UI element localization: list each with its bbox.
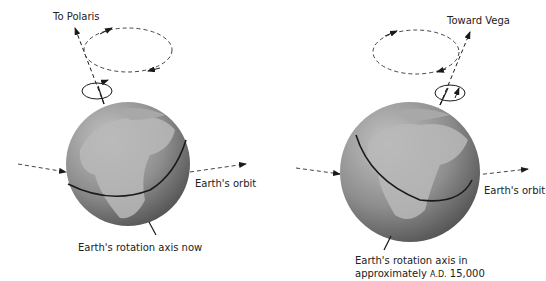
- precession-diagram: [0, 0, 546, 281]
- precession-circle: [84, 28, 172, 72]
- polaris-label: To Polaris: [53, 10, 100, 23]
- orbit-label-left: Earth's orbit: [195, 177, 256, 190]
- spin-loop-icon: [435, 85, 465, 101]
- spin-loop-icon: [82, 83, 112, 99]
- earth-globe-icon: [340, 102, 480, 242]
- orbit-dashed-right: [476, 169, 528, 175]
- right-earth-diagram: [296, 30, 528, 250]
- orbit-dashed-left: [296, 168, 340, 174]
- left-earth-diagram: [18, 28, 246, 235]
- precession-circle: [373, 30, 459, 74]
- earth-globe-icon: [66, 102, 190, 226]
- axis-label-left: Earth's rotation axis now: [78, 241, 202, 254]
- axis-label-right-line1: Earth's rotation axis in: [355, 254, 468, 267]
- vega-label: Toward Vega: [447, 14, 510, 27]
- axis-south-line: [149, 222, 156, 235]
- axis-label-right-line2: approximately A.D. 15,000: [355, 267, 485, 281]
- orbit-dashed-left: [18, 164, 66, 172]
- orbit-dashed-right: [190, 164, 246, 172]
- orbit-label-right: Earth's orbit: [484, 184, 545, 197]
